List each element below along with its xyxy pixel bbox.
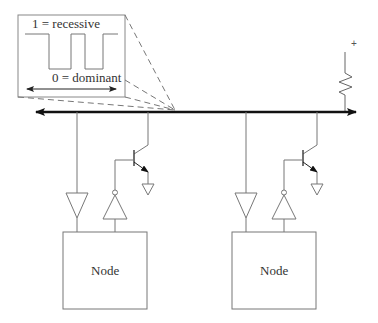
dominant-label: 0 = dominant	[52, 71, 121, 84]
ground-symbol	[311, 184, 323, 195]
node-1-label: Node	[91, 264, 119, 277]
node-2-circuit	[232, 112, 323, 309]
node-1-circuit	[63, 112, 154, 309]
receiver-buffer	[66, 193, 88, 218]
can-bus-diagram: 1 = recessive 0 = dominant + Node Node	[0, 0, 378, 323]
driver-inverter	[272, 195, 296, 219]
pullup-resistor	[339, 52, 352, 112]
supply-plus-label: +	[351, 39, 357, 49]
node-2-label: Node	[260, 264, 288, 277]
receiver-buffer	[235, 193, 257, 218]
driver-inverter	[103, 195, 127, 219]
recessive-label: 1 = recessive	[32, 17, 100, 30]
ground-symbol	[142, 184, 154, 195]
